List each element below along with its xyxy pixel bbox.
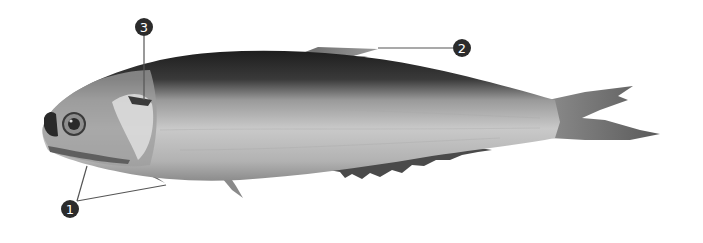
leader-line-1a — [77, 166, 87, 201]
marker-2: 2 — [453, 39, 471, 57]
fish-illustration: 3 2 1 — [0, 0, 703, 243]
marker-3: 3 — [135, 18, 153, 36]
caudal-fin — [548, 86, 660, 140]
eye-pupil — [68, 118, 80, 130]
marker-3-label: 3 — [140, 20, 148, 35]
marker-1: 1 — [61, 200, 79, 218]
leader-line-1b — [77, 185, 166, 201]
marker-1-label: 1 — [66, 202, 74, 217]
eye-highlight — [69, 119, 72, 122]
marker-2-label: 2 — [458, 41, 466, 56]
